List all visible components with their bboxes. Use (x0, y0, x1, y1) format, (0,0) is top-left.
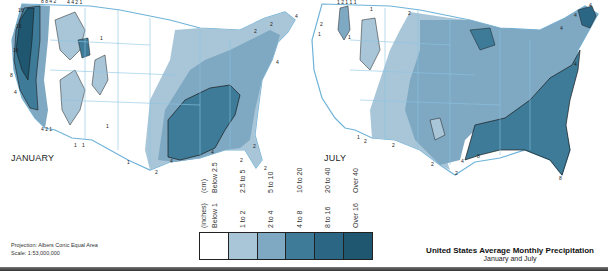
svg-text:1: 1 (318, 31, 321, 37)
svg-text:2: 2 (408, 10, 411, 16)
scale-text: Scale: 1:53,000,000 (11, 249, 98, 257)
svg-text:16: 16 (13, 47, 19, 53)
legend-swatches (199, 232, 373, 260)
svg-text:4: 4 (574, 12, 577, 18)
svg-text:4: 4 (574, 61, 577, 67)
svg-text:4: 4 (276, 59, 279, 65)
caption-title: United States Average Monthly Precipitat… (426, 246, 594, 255)
svg-text:4: 4 (589, 2, 592, 8)
svg-text:4 2 1: 4 2 1 (41, 126, 52, 132)
svg-text:1: 1 (106, 123, 109, 129)
legend-cm-1: 2.5 to 5 (239, 170, 246, 193)
legend-swatch-below-1 (200, 233, 229, 259)
svg-text:16: 16 (16, 23, 22, 29)
legend-header-inches: (inches) (200, 203, 207, 228)
legend-header-cm: (cm) (200, 179, 207, 193)
svg-text:4: 4 (170, 158, 173, 164)
legend-inches-1: 1 to 2 (239, 210, 246, 228)
july-map-title: JULY (324, 153, 346, 163)
svg-text:8: 8 (559, 175, 562, 180)
svg-text:2: 2 (270, 21, 273, 27)
january-map-graphic: 16 16 16 8 4 8 8 4 2 4 4 2 1 4 2 1 1 1 1… (0, 0, 300, 175)
legend-cm-5: Over 40 (352, 168, 359, 193)
legend-swatch-1-to-2 (229, 233, 258, 259)
legend-swatch-8-to-16 (315, 233, 344, 259)
precipitation-legend: (inches) (cm) Below 1 Below 2.5 1 to 2 2… (199, 170, 377, 262)
legend-inches-3: 4 to 8 (296, 210, 303, 228)
legend-swatch-4-to-8 (286, 233, 315, 259)
legend-swatch-2-to-4 (258, 233, 287, 259)
svg-text:1: 1 (100, 35, 103, 41)
page-bottom-edge (0, 267, 608, 271)
svg-text:2: 2 (155, 169, 158, 175)
svg-text:8: 8 (477, 153, 480, 159)
legend-inches-0: Below 1 (211, 203, 218, 228)
svg-text:2: 2 (254, 28, 257, 34)
svg-text:1: 1 (348, 34, 351, 40)
svg-text:2: 2 (392, 142, 395, 148)
caption-subtitle: January and July (426, 255, 594, 262)
svg-text:1: 1 (370, 6, 373, 12)
legend-cm-2: 5 to 10 (267, 172, 274, 193)
svg-text:4: 4 (211, 149, 214, 155)
figure-caption: United States Average Monthly Precipitat… (426, 246, 594, 262)
legend-cm-3: 10 to 20 (296, 168, 303, 193)
svg-text:4: 4 (295, 13, 298, 19)
svg-text:4: 4 (14, 89, 17, 95)
svg-text:2: 2 (431, 161, 434, 167)
svg-text:4: 4 (560, 25, 563, 31)
legend-cm-0: Below 2.5 (211, 162, 218, 193)
projection-text: Projection: Albers Conic Equal Area (11, 241, 98, 249)
legend-inches-5: Over 16 (352, 203, 359, 228)
svg-text:4 4 2 1: 4 4 2 1 (67, 0, 83, 5)
svg-text:1: 1 (127, 159, 130, 165)
january-map-title: JANUARY (11, 153, 54, 163)
svg-text:8 8 4 2: 8 8 4 2 (41, 0, 57, 4)
january-precipitation-map: 16 16 16 8 4 8 8 4 2 4 4 2 1 4 2 1 1 1 1… (0, 0, 300, 175)
legend-inches-4: 8 to 16 (324, 207, 331, 228)
svg-text:16: 16 (18, 7, 24, 13)
projection-note: Projection: Albers Conic Equal Area Scal… (11, 241, 98, 257)
july-precipitation-map: 1 2 1 1 1 2 1 1 1 2 1 2 2 2 2 4 8 8 4 4 … (300, 0, 608, 180)
svg-text:2: 2 (320, 21, 323, 27)
svg-text:1 2 1 1 1: 1 2 1 1 1 (337, 0, 357, 5)
svg-text:8: 8 (10, 72, 13, 78)
svg-text:4: 4 (461, 158, 464, 164)
svg-text:1: 1 (82, 142, 85, 148)
svg-text:2: 2 (253, 143, 256, 149)
svg-text:2: 2 (455, 170, 458, 176)
july-map-graphic: 1 2 1 1 1 2 1 1 1 2 1 2 2 2 2 4 8 8 4 4 … (300, 0, 608, 180)
svg-text:1: 1 (357, 134, 360, 140)
legend-inches-2: 2 to 4 (267, 210, 274, 228)
legend-swatch-over-16 (344, 233, 372, 259)
svg-text:1: 1 (74, 142, 77, 148)
legend-cm-4: 20 to 40 (324, 168, 331, 193)
svg-text:2: 2 (240, 157, 243, 163)
svg-text:2: 2 (364, 138, 367, 144)
